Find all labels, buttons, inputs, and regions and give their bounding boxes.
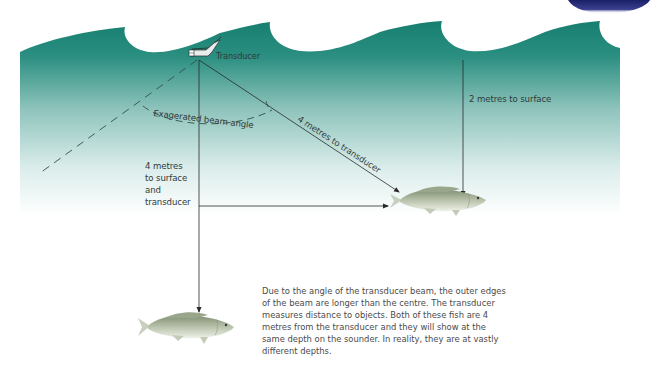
deep-fish-depth-line-4: transducer [145, 196, 205, 208]
deep-fish-depth-label: 4 metres to surface and transducer [145, 160, 205, 208]
explanation-caption: Due to the angle of the transducer beam,… [262, 285, 510, 357]
deep-fish-depth-line-3: and [145, 184, 205, 196]
logo-arc-icon [568, 0, 650, 14]
transducer-label: Transducer [216, 50, 260, 62]
water-body [20, 21, 620, 215]
deep-fish-depth-line-1: 4 metres [145, 160, 205, 172]
shallow-fish-depth-label: 2 metres to surface [469, 93, 551, 105]
fish-lower-icon [138, 312, 234, 344]
deep-fish-depth-line-2: to surface [145, 172, 205, 184]
